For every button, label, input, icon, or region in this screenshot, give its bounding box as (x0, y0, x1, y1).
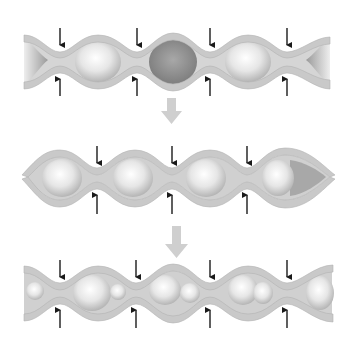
step-arrow-down-icon (165, 226, 188, 258)
bolus (110, 284, 126, 300)
stage-3 (24, 260, 334, 328)
bolus (75, 42, 121, 82)
bolus (262, 160, 294, 196)
bolus (253, 282, 273, 304)
step-arrow-down-icon (161, 98, 182, 124)
bolus (186, 159, 226, 197)
bolus (42, 159, 82, 197)
stage-1 (24, 28, 330, 96)
bolus (306, 276, 334, 310)
segmentation-diagram (0, 0, 356, 342)
bolus (113, 159, 153, 197)
bolus (180, 283, 200, 303)
bolus (26, 282, 44, 300)
stage-2 (22, 146, 335, 214)
bolus (225, 42, 271, 82)
